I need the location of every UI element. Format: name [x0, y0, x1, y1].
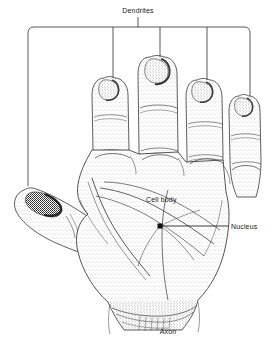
- nucleus-marker: [158, 224, 163, 229]
- cell-body-annotation: Cell body: [146, 196, 177, 204]
- dendrites-label: Dendrites: [122, 7, 154, 14]
- nucleus-label: Nucleus: [231, 223, 258, 230]
- hand-neuron-illustration: Dendrites Cell body Nucleus Axon: [0, 0, 276, 350]
- neuron-hand-figure: Dendrites Cell body Nucleus Axon: [0, 0, 276, 350]
- little-finger: [229, 95, 261, 198]
- axon-label: Axon: [160, 328, 177, 335]
- axon-annotation: Axon: [160, 328, 177, 335]
- cell-body-label: Cell body: [146, 196, 177, 204]
